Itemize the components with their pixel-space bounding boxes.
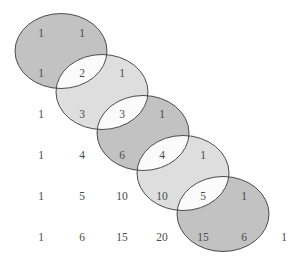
pascal-number: 1	[38, 108, 44, 120]
pascal-number: 6	[119, 149, 125, 161]
pascal-number: 1	[241, 190, 247, 202]
pascal-number: 1	[38, 67, 44, 79]
pascal-number: 1	[38, 190, 44, 202]
pascal-number: 15	[116, 231, 128, 243]
pascal-number: 1	[79, 27, 85, 39]
pascal-number: 5	[200, 190, 206, 202]
pascal-number: 15	[197, 231, 209, 243]
pascal-number: 1	[119, 67, 125, 79]
pascal-number: 4	[159, 149, 165, 161]
pascal-number: 3	[79, 108, 85, 120]
pascal-number: 1	[200, 149, 206, 161]
pascal-number: 5	[79, 190, 85, 202]
pascal-number: 1	[38, 149, 44, 161]
pascal-number: 1	[281, 231, 287, 243]
pascal-number: 10	[156, 190, 168, 202]
pascal-diagram: 11121133114641151010511615201561	[0, 0, 297, 265]
pascal-number: 10	[116, 190, 128, 202]
pascal-number: 1	[38, 231, 44, 243]
pascal-number: 20	[156, 231, 168, 243]
pascal-number: 3	[119, 108, 125, 120]
pascal-number: 6	[79, 231, 85, 243]
pascal-number: 6	[241, 231, 247, 243]
pascal-number: 1	[159, 108, 165, 120]
pascal-number: 2	[79, 67, 85, 79]
ellipse-layer	[0, 0, 297, 265]
pascal-number: 4	[79, 149, 85, 161]
pascal-number: 1	[38, 27, 44, 39]
